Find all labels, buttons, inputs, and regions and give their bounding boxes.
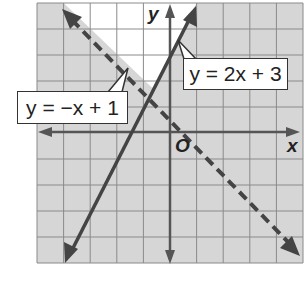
equation-text: y = −x + 1 (26, 96, 119, 120)
y-axis-label: y (148, 3, 159, 25)
coordinate-graph (0, 0, 306, 286)
equation-text: y = 2x + 3 (189, 62, 281, 86)
equation-label-neg-x-plus-1: y = −x + 1 (17, 91, 128, 124)
equation-label-2x-plus-3: y = 2x + 3 (183, 58, 288, 90)
origin-label: O (175, 135, 190, 157)
x-axis-label: x (287, 135, 298, 157)
